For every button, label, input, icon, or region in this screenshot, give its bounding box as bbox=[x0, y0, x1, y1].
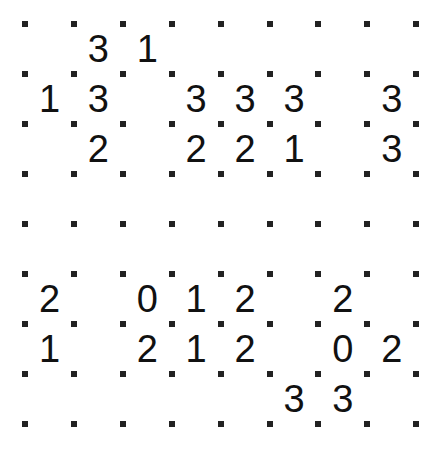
puzzle-cell[interactable] bbox=[367, 374, 416, 424]
puzzle-cell[interactable] bbox=[318, 124, 367, 174]
puzzle-cell[interactable]: 2 bbox=[221, 324, 270, 374]
puzzle-cell[interactable] bbox=[74, 174, 123, 224]
puzzle-cell[interactable]: 3 bbox=[318, 374, 367, 424]
puzzle-cell[interactable]: 1 bbox=[172, 274, 221, 324]
puzzle-cell[interactable]: 0 bbox=[123, 274, 172, 324]
puzzle-cell[interactable] bbox=[270, 24, 319, 74]
puzzle-cell[interactable] bbox=[123, 74, 172, 124]
puzzle-cell[interactable] bbox=[172, 224, 221, 274]
puzzle-cell[interactable] bbox=[123, 124, 172, 174]
puzzle-cell[interactable] bbox=[318, 174, 367, 224]
puzzle-cell[interactable] bbox=[318, 224, 367, 274]
puzzle-cell[interactable] bbox=[367, 174, 416, 224]
puzzle-cell[interactable]: 3 bbox=[221, 74, 270, 124]
puzzle-cell[interactable]: 3 bbox=[270, 374, 319, 424]
puzzle-cell[interactable]: 3 bbox=[367, 124, 416, 174]
puzzle-cell[interactable]: 1 bbox=[270, 124, 319, 174]
puzzle-cell[interactable] bbox=[221, 224, 270, 274]
puzzle-cell[interactable] bbox=[74, 374, 123, 424]
puzzle-cell[interactable] bbox=[123, 174, 172, 224]
puzzle-cell[interactable]: 0 bbox=[318, 324, 367, 374]
puzzle-cell[interactable] bbox=[172, 374, 221, 424]
puzzle-cell[interactable] bbox=[123, 224, 172, 274]
puzzle-cell[interactable] bbox=[367, 224, 416, 274]
puzzle-cell[interactable] bbox=[172, 24, 221, 74]
puzzle-cell[interactable] bbox=[270, 324, 319, 374]
puzzle-cell[interactable] bbox=[270, 274, 319, 324]
puzzle-cell[interactable]: 3 bbox=[367, 74, 416, 124]
puzzle-cell[interactable]: 1 bbox=[25, 74, 74, 124]
puzzle-cell[interactable] bbox=[172, 174, 221, 224]
puzzle-cell[interactable]: 1 bbox=[123, 24, 172, 74]
slitherlink-board: 31133333222132012212120233 bbox=[0, 0, 441, 450]
puzzle-cell[interactable] bbox=[25, 24, 74, 74]
puzzle-cell[interactable] bbox=[318, 74, 367, 124]
puzzle-cell[interactable] bbox=[221, 374, 270, 424]
puzzle-cell[interactable]: 2 bbox=[172, 124, 221, 174]
puzzle-cell[interactable] bbox=[270, 224, 319, 274]
puzzle-cell[interactable]: 2 bbox=[123, 324, 172, 374]
puzzle-cell[interactable]: 3 bbox=[270, 74, 319, 124]
puzzle-cell[interactable]: 2 bbox=[25, 274, 74, 324]
puzzle-cell[interactable]: 1 bbox=[172, 324, 221, 374]
puzzle-cell[interactable] bbox=[25, 374, 74, 424]
puzzle-cell[interactable] bbox=[270, 174, 319, 224]
puzzle-cell[interactable] bbox=[367, 274, 416, 324]
puzzle-cell[interactable] bbox=[318, 24, 367, 74]
puzzle-cell[interactable]: 2 bbox=[318, 274, 367, 324]
puzzle-cell[interactable]: 3 bbox=[74, 24, 123, 74]
puzzle-cell[interactable] bbox=[123, 374, 172, 424]
puzzle-cell[interactable]: 2 bbox=[74, 124, 123, 174]
puzzle-cell[interactable] bbox=[74, 324, 123, 374]
puzzle-cell[interactable]: 1 bbox=[25, 324, 74, 374]
puzzle-cell[interactable]: 2 bbox=[367, 324, 416, 374]
puzzle-cell[interactable]: 2 bbox=[221, 124, 270, 174]
puzzle-cell[interactable] bbox=[74, 224, 123, 274]
puzzle-cell[interactable] bbox=[221, 24, 270, 74]
puzzle-cell[interactable] bbox=[25, 174, 74, 224]
puzzle-cell[interactable] bbox=[25, 224, 74, 274]
puzzle-cell[interactable] bbox=[25, 124, 74, 174]
puzzle-cell[interactable] bbox=[74, 274, 123, 324]
puzzle-cell[interactable] bbox=[221, 174, 270, 224]
puzzle-cell[interactable]: 2 bbox=[221, 274, 270, 324]
puzzle-cell[interactable]: 3 bbox=[172, 74, 221, 124]
puzzle-cell[interactable] bbox=[367, 24, 416, 74]
puzzle-cell[interactable]: 3 bbox=[74, 74, 123, 124]
